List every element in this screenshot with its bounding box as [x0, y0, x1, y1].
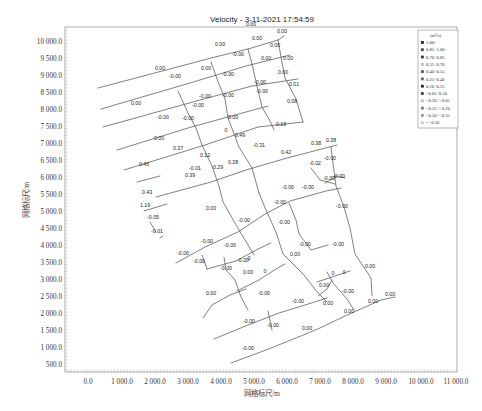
- velocity-label: 0.49: [235, 132, 245, 138]
- velocity-label: 0.29: [213, 164, 223, 170]
- x-axis-label: 网格标尺/m: [244, 388, 280, 398]
- velocity-label: 0.00: [344, 308, 354, 314]
- velocity-label: -0.00: [157, 114, 169, 120]
- x-tick: 1 000.0: [111, 378, 133, 386]
- legend-entry-label: −0.05~0.10: [426, 91, 448, 96]
- velocity-label: 0.00: [290, 251, 300, 257]
- y-tick: 6 000.0: [40, 174, 62, 182]
- legend-entry-label: 0.55~0.70: [426, 62, 445, 67]
- x-tick: 4 000.0: [210, 378, 232, 386]
- velocity-label: 0: [343, 269, 346, 275]
- legend-swatch: [421, 78, 424, 81]
- x-tick: 9 000.0: [375, 378, 397, 386]
- velocity-label: -0.02: [309, 160, 321, 166]
- velocity-label: -0.00: [232, 51, 244, 57]
- velocity-label: 0.00: [252, 35, 262, 41]
- velocity-label: -0.00: [243, 318, 255, 324]
- velocity-label: 0.00: [261, 55, 271, 61]
- velocity-label: 0.00: [368, 298, 378, 304]
- x-tick: 3 000.0: [177, 378, 199, 386]
- velocity-label: -0.00: [242, 345, 254, 351]
- velocity-label: -0.00: [267, 322, 279, 328]
- velocity-label: -0.05: [147, 214, 159, 220]
- legend-swatch: [421, 107, 424, 110]
- y-tick: 6 500.0: [40, 157, 62, 165]
- velocity-label: 0.39: [185, 172, 195, 178]
- x-tick: 10 000.0: [408, 378, 434, 386]
- velocity-label: 0.00: [154, 135, 164, 141]
- y-tick: 2 500.0: [40, 293, 62, 301]
- velocity-label: -0.00: [302, 184, 314, 190]
- x-tick: 5 000.0: [243, 378, 265, 386]
- velocity-label: -0.00: [258, 290, 270, 296]
- velocity-label: 0.08: [287, 98, 297, 104]
- velocity-label: -0.00: [192, 102, 204, 108]
- legend-swatch: [421, 63, 424, 66]
- velocity-label: 0.00: [206, 205, 216, 211]
- velocity-label: 0.00: [270, 42, 280, 48]
- velocity-label: 0: [248, 255, 251, 261]
- velocity-label: 0.00: [319, 282, 329, 288]
- velocity-label: -0.00: [292, 298, 304, 304]
- legend-entry-label: 0.85~1.00: [426, 47, 445, 52]
- velocity-label: 0.00: [385, 291, 395, 297]
- velocity-label: 0.19: [276, 121, 286, 127]
- velocity-label: -0.00: [238, 217, 250, 223]
- velocity-label: 0.42: [281, 149, 291, 155]
- velocity-label: -0.00: [222, 71, 234, 77]
- velocity-label: -0.01: [151, 228, 163, 234]
- y-tick: 5 000.0: [40, 208, 62, 216]
- legend-entry-label: −0.50~−0.35: [426, 113, 450, 118]
- velocity-label: 0.12: [200, 152, 210, 158]
- velocity-label: 0.00: [246, 21, 256, 27]
- legend-swatch: [421, 99, 424, 102]
- velocity-label: 0.37: [173, 145, 183, 151]
- y-tick: 10 000.0: [37, 38, 63, 46]
- x-tick: 7 000.0: [309, 378, 331, 386]
- y-tick: 7 000.0: [40, 140, 62, 148]
- legend-swatch: [421, 56, 424, 59]
- velocity-label: -0.00: [169, 73, 181, 79]
- velocity-label: 0.00: [206, 290, 216, 296]
- y-tick: 9 000.0: [40, 72, 62, 80]
- x-tick: 6 000.0: [276, 378, 298, 386]
- y-tick: 7 500.0: [40, 123, 62, 131]
- x-tick: 8 000.0: [342, 378, 364, 386]
- legend-entry-label: 0.40~0.55: [426, 69, 445, 74]
- legend-swatch: [421, 114, 424, 117]
- velocity-label: 0.01: [289, 81, 299, 87]
- velocity-label: 0.00: [215, 41, 225, 47]
- y-tick: 5 500.0: [40, 191, 62, 199]
- y-tick: 8 500.0: [40, 89, 62, 97]
- velocity-label: 0.28: [228, 159, 238, 165]
- legend-swatch: [421, 121, 424, 124]
- velocity-label: -0.00: [199, 93, 211, 99]
- legend-entry-label: 0.70~0.85: [426, 55, 445, 60]
- y-tick: 1 000.0: [40, 344, 62, 352]
- x-tick-labels: 0.0 1 000.0 2 000.0 3 000.0 4 000.0 5 00…: [84, 378, 469, 386]
- y-tick: 4 500.0: [40, 225, 62, 233]
- legend-swatch: [421, 85, 424, 88]
- y-tick: 2 000.0: [40, 310, 62, 318]
- velocity-label: 0: [225, 127, 228, 133]
- velocity-label: -0.00: [282, 184, 294, 190]
- legend-unit: (m³/s): [430, 33, 442, 38]
- y-tick: 3 500.0: [40, 259, 62, 267]
- velocity-label: 0: [332, 270, 335, 276]
- velocity-label: 0.00: [243, 269, 253, 275]
- y-axis-ticks: [65, 30, 68, 370]
- velocity-label: 1.19: [140, 202, 150, 208]
- legend-entry-label: <−0.50: [426, 120, 440, 125]
- velocity-label: -0.00: [333, 173, 345, 179]
- legend-entry-label: −0.20~−0.05: [426, 98, 450, 103]
- velocity-chart: Velocity - 3-11-2021 17:54:59 10 000.0 9…: [0, 0, 482, 411]
- velocity-label: -0.00: [182, 115, 194, 121]
- velocity-label: -0.00: [274, 199, 286, 205]
- velocity-label: -0.00: [224, 242, 236, 248]
- legend-swatch: [421, 70, 424, 73]
- legend-entry-label: −0.35~−0.20: [426, 106, 450, 111]
- legend-swatch: [421, 92, 424, 95]
- velocity-label: -0.00: [256, 88, 268, 94]
- velocity-label: -0.01: [189, 165, 201, 171]
- x-tick: 11 000.0: [444, 378, 469, 386]
